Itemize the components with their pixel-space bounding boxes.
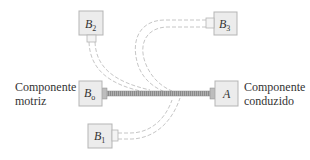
connector-b2 [87,35,96,42]
driver-component-label: Componente motriz [15,80,76,108]
driver-label-line2: motriz [15,94,76,108]
driven-component-label: Componente conduzido [244,80,305,108]
connector-b1 [112,130,118,141]
box-b0-driver: Bo [79,81,102,106]
shaft-coupling-left [102,88,107,99]
flexible-shaft [102,88,215,99]
box-b1: B1 [88,124,118,148]
dashed-path-b1 [118,98,180,139]
driver-label-line1: Componente [15,80,76,94]
dashed-path-b3 [135,20,206,92]
box-a-driven: A [215,81,238,106]
box-b2: B2 [79,11,103,42]
svg-text:A: A [222,87,231,101]
driven-label-line2: conduzido [244,94,305,108]
flexible-shaft-diagram: B2 B3 Bo A B1 Componente motriz Compone [0,0,310,160]
connector-b3 [206,18,214,28]
box-b3: B3 [206,12,237,35]
driven-label-line1: Componente [244,80,305,94]
shaft-coupling-right [210,88,215,99]
